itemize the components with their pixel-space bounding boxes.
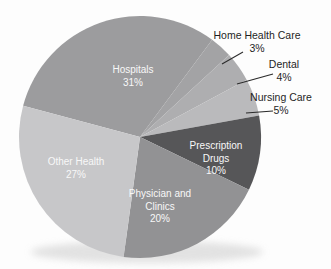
pie-slices <box>19 16 261 258</box>
pie-chart-canvas <box>0 0 331 269</box>
pie-chart: Hospitals 31% Prescription Drugs 10% Phy… <box>0 0 331 269</box>
